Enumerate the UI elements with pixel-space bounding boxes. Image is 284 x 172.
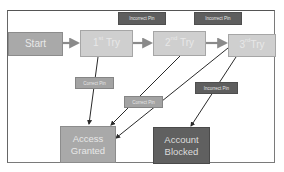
- node-start: Start: [8, 32, 63, 56]
- node-account-blocked-line1: Account: [164, 134, 198, 146]
- node-second-try-label: 2nd Try: [165, 37, 194, 50]
- node-access-granted: Access Granted: [60, 126, 116, 163]
- edge-label-incorrect-pin-1: Incorrect Pin: [118, 12, 166, 25]
- node-third-try-label: 3rdTry: [240, 39, 265, 52]
- node-access-granted-line2: Granted: [71, 145, 105, 157]
- edge-label-incorrect-pin-2: Incorrect Pin: [194, 12, 242, 25]
- node-account-blocked-line2: Blocked: [165, 146, 199, 158]
- node-third-try: 3rdTry: [228, 34, 276, 57]
- node-access-granted-line1: Access: [73, 133, 104, 145]
- node-first-try: 1st Try: [80, 30, 133, 57]
- edge-label-correct-pin-2: Correct Pin: [124, 96, 163, 108]
- edge-label-incorrect-pin-3: Incorrect Pin: [195, 82, 238, 94]
- node-start-label: Start: [25, 38, 46, 51]
- node-second-try: 2nd Try: [153, 31, 206, 56]
- node-account-blocked: Account Blocked: [153, 127, 210, 164]
- edge-label-correct-pin-1: Correct Pin: [75, 77, 114, 89]
- node-first-try-label: 1st Try: [93, 37, 120, 50]
